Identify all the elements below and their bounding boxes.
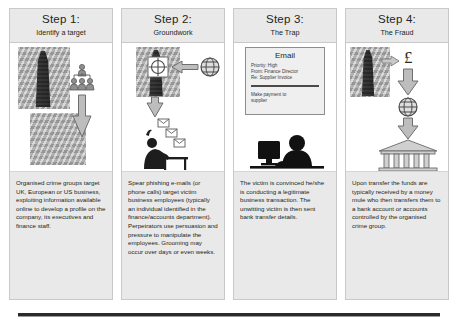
step-4-header: Step 4: The Fraud [346, 9, 448, 43]
left-arrow-icon [172, 61, 198, 73]
step-3-label: Step 3: [236, 13, 334, 26]
step-2-artwork [122, 43, 224, 171]
right-arrow-icon [382, 56, 399, 66]
step-2-body: Spear phishing e-mails (or phone calls) … [122, 171, 224, 299]
envelope-icon [158, 119, 185, 147]
bottom-divider [18, 313, 440, 316]
globe-icon [201, 58, 219, 76]
step-panel-2[interactable]: Step 2: Groundwork [121, 8, 225, 300]
step-1-subtitle: Identify a target [12, 28, 110, 37]
up-arrow-icon [73, 95, 91, 137]
step-panel-3[interactable]: Step 3: The Trap Email Priority: High Fr… [233, 8, 337, 300]
step-4-label: Step 4: [348, 13, 446, 26]
step-3-body: The victim is convinced he/she is conduc… [234, 171, 336, 299]
step-2-subtitle: Groundwork [124, 28, 222, 37]
step-1-body: Organised crime groups target UK, Europe… [10, 171, 112, 299]
step-2-label: Step 2: [124, 13, 222, 26]
step-3-artwork: Email Priority: High From: Finance Direc… [234, 43, 336, 171]
crosshair-target-icon [148, 57, 168, 77]
down-arrow-icon [147, 97, 163, 117]
step-4-subtitle: The Fraud [348, 28, 446, 37]
down-arrow-icon [398, 118, 418, 139]
step-panel-4[interactable]: Step 4: The Fraud £ [345, 8, 449, 300]
step-3-diagram [234, 43, 336, 171]
step-4-diagram [346, 43, 448, 171]
step-1-header: Step 1: Identify a target [10, 9, 112, 43]
infographic-sheet: Step 1: Identify a target [0, 0, 458, 330]
globe-icon [399, 98, 417, 116]
steps-container: Step 1: Identify a target [0, 8, 458, 300]
step-3-subtitle: The Trap [236, 28, 334, 37]
step-1-diagram [10, 43, 112, 171]
step-3-header: Step 3: The Trap [234, 9, 336, 43]
step-2-diagram [122, 43, 224, 171]
org-chart-people-icon [70, 64, 94, 90]
person-at-computer-icon [250, 135, 324, 169]
step-4-artwork: £ [346, 43, 448, 171]
step-1-artwork [10, 43, 112, 171]
step-panel-1[interactable]: Step 1: Identify a target [9, 8, 113, 300]
down-arrow-icon [398, 69, 418, 95]
step-2-header: Step 2: Groundwork [122, 9, 224, 43]
bank-building-icon [379, 140, 437, 171]
step-1-label: Step 1: [12, 13, 110, 26]
step-4-body: Upon transfer the funds are typically re… [346, 171, 448, 299]
